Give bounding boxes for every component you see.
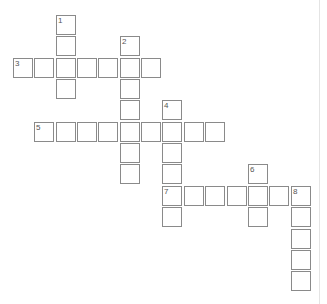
- crossword-cell[interactable]: [56, 58, 76, 78]
- crossword-cell[interactable]: [120, 164, 140, 184]
- crossword-cell[interactable]: 8: [291, 186, 311, 206]
- clue-number: 5: [36, 123, 40, 132]
- panel-divider: [319, 0, 320, 304]
- crossword-cell[interactable]: [162, 122, 182, 142]
- crossword-cell[interactable]: [184, 186, 204, 206]
- crossword-cell[interactable]: [162, 207, 182, 227]
- crossword-cell[interactable]: [291, 271, 311, 291]
- crossword-cell[interactable]: [34, 58, 54, 78]
- crossword-cell[interactable]: 4: [162, 100, 182, 120]
- crossword-cell[interactable]: [248, 186, 268, 206]
- crossword-cell[interactable]: [77, 58, 97, 78]
- crossword-cell[interactable]: 7: [162, 186, 182, 206]
- crossword-cell[interactable]: 6: [248, 164, 268, 184]
- crossword-cell[interactable]: [120, 100, 140, 120]
- crossword-cell[interactable]: [248, 207, 268, 227]
- crossword-cell[interactable]: [56, 122, 76, 142]
- clue-number: 7: [164, 187, 168, 196]
- crossword-cell[interactable]: [141, 58, 161, 78]
- crossword-cell[interactable]: [98, 58, 118, 78]
- crossword-cell[interactable]: [120, 143, 140, 163]
- clue-number: 4: [164, 101, 168, 110]
- clue-number: 3: [15, 59, 19, 68]
- crossword-cell[interactable]: [205, 186, 225, 206]
- crossword-cell[interactable]: [77, 122, 97, 142]
- crossword-cell[interactable]: [56, 36, 76, 56]
- crossword-cell[interactable]: [184, 122, 204, 142]
- crossword-cell[interactable]: [120, 122, 140, 142]
- crossword-cell[interactable]: [120, 58, 140, 78]
- crossword-cell[interactable]: 2: [120, 36, 140, 56]
- crossword-cell[interactable]: [291, 250, 311, 270]
- crossword-cell[interactable]: [269, 186, 289, 206]
- crossword-cell[interactable]: [56, 79, 76, 99]
- crossword-grid: 12347568: [0, 0, 327, 304]
- clue-number: 1: [58, 16, 62, 25]
- crossword-cell[interactable]: 3: [13, 58, 33, 78]
- crossword-cell[interactable]: [205, 122, 225, 142]
- crossword-cell[interactable]: [291, 229, 311, 249]
- crossword-cell[interactable]: [162, 164, 182, 184]
- crossword-cell[interactable]: 5: [34, 122, 54, 142]
- crossword-cell[interactable]: [120, 79, 140, 99]
- crossword-cell[interactable]: [227, 186, 247, 206]
- crossword-cell[interactable]: [291, 207, 311, 227]
- crossword-cell[interactable]: [162, 143, 182, 163]
- clue-number: 6: [250, 165, 254, 174]
- clue-number: 2: [122, 37, 126, 46]
- clue-number: 8: [293, 187, 297, 196]
- crossword-cell[interactable]: 1: [56, 15, 76, 35]
- crossword-cell[interactable]: [98, 122, 118, 142]
- crossword-cell[interactable]: [141, 122, 161, 142]
